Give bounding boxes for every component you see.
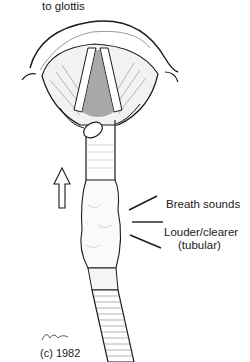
copyright-label: (c) 1982 (40, 347, 80, 360)
larynx-illustration (0, 0, 250, 362)
trachea (81, 180, 121, 268)
pointer-line-3 (130, 235, 161, 248)
louder-clearer-label: Louder/clearer (164, 226, 238, 239)
tubular-label: (tubular) (178, 239, 221, 252)
title-label: to glottis (42, 0, 85, 13)
pointer-line-1 (129, 196, 157, 210)
artist-signature (42, 334, 68, 340)
arrow-up-icon (54, 168, 70, 208)
breath-sounds-label: Breath sounds (166, 198, 240, 211)
